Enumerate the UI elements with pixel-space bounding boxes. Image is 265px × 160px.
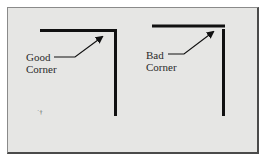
bad-corner-label-line1: Bad: [146, 49, 177, 61]
good-corner-label-line2: Corner: [26, 63, 57, 75]
good-corner-label: Good Corner: [26, 51, 57, 75]
corner-diagram: [0, 0, 265, 160]
good-corner-arrow: [54, 37, 102, 57]
bad-corner-label-line2: Corner: [146, 61, 177, 73]
bad-corner-label: Bad Corner: [146, 49, 177, 73]
cursor-mark: ˙†: [37, 109, 43, 116]
good-corner-label-line1: Good: [26, 51, 57, 63]
